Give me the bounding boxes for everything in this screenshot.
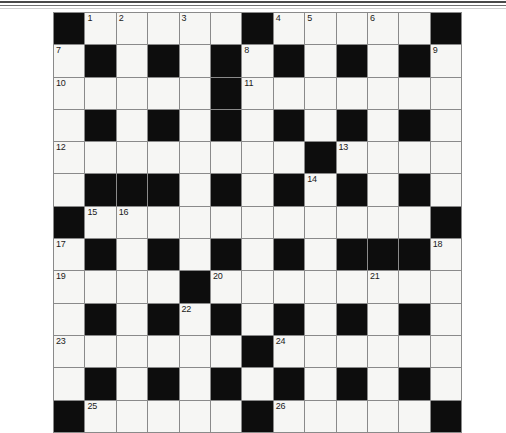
crossword-entry-cell[interactable]: 4 (273, 13, 304, 45)
crossword-entry-cell[interactable] (148, 13, 179, 45)
crossword-entry-cell[interactable] (336, 335, 367, 367)
crossword-entry-cell[interactable]: 11 (242, 77, 273, 109)
crossword-entry-cell[interactable]: 8 (242, 45, 273, 77)
crossword-entry-cell[interactable]: 17 (54, 239, 85, 271)
crossword-entry-cell[interactable] (367, 174, 398, 206)
crossword-entry-cell[interactable] (336, 77, 367, 109)
crossword-entry-cell[interactable] (116, 271, 147, 303)
crossword-entry-cell[interactable] (85, 335, 116, 367)
crossword-entry-cell[interactable]: 2 (116, 13, 147, 45)
crossword-entry-cell[interactable] (305, 239, 336, 271)
crossword-entry-cell[interactable] (179, 142, 210, 174)
crossword-entry-cell[interactable]: 25 (85, 400, 116, 432)
crossword-entry-cell[interactable] (430, 335, 461, 367)
crossword-entry-cell[interactable] (116, 142, 147, 174)
crossword-entry-cell[interactable] (242, 368, 273, 400)
crossword-entry-cell[interactable] (367, 142, 398, 174)
crossword-entry-cell[interactable] (148, 400, 179, 432)
crossword-entry-cell[interactable] (399, 335, 430, 367)
crossword-entry-cell[interactable] (273, 271, 304, 303)
crossword-entry-cell[interactable] (148, 335, 179, 367)
crossword-entry-cell[interactable] (179, 400, 210, 432)
crossword-entry-cell[interactable] (54, 174, 85, 206)
crossword-entry-cell[interactable] (54, 109, 85, 141)
crossword-entry-cell[interactable] (148, 142, 179, 174)
crossword-entry-cell[interactable]: 7 (54, 45, 85, 77)
crossword-entry-cell[interactable] (116, 109, 147, 141)
crossword-entry-cell[interactable] (242, 303, 273, 335)
crossword-entry-cell[interactable] (210, 13, 241, 45)
crossword-entry-cell[interactable]: 3 (179, 13, 210, 45)
crossword-entry-cell[interactable] (367, 368, 398, 400)
crossword-entry-cell[interactable]: 24 (273, 335, 304, 367)
crossword-entry-cell[interactable] (399, 400, 430, 432)
crossword-entry-cell[interactable] (54, 368, 85, 400)
crossword-entry-cell[interactable] (242, 206, 273, 238)
crossword-entry-cell[interactable]: 14 (305, 174, 336, 206)
crossword-entry-cell[interactable]: 20 (210, 271, 241, 303)
crossword-entry-cell[interactable] (273, 206, 304, 238)
crossword-entry-cell[interactable]: 9 (430, 45, 461, 77)
crossword-entry-cell[interactable] (305, 400, 336, 432)
crossword-entry-cell[interactable] (179, 174, 210, 206)
crossword-entry-cell[interactable]: 10 (54, 77, 85, 109)
crossword-entry-cell[interactable] (116, 239, 147, 271)
crossword-entry-cell[interactable] (210, 142, 241, 174)
crossword-entry-cell[interactable] (305, 45, 336, 77)
crossword-entry-cell[interactable] (54, 303, 85, 335)
crossword-entry-cell[interactable] (179, 335, 210, 367)
crossword-entry-cell[interactable] (179, 77, 210, 109)
crossword-entry-cell[interactable]: 22 (179, 303, 210, 335)
crossword-entry-cell[interactable] (305, 368, 336, 400)
crossword-entry-cell[interactable] (148, 271, 179, 303)
crossword-entry-cell[interactable] (210, 400, 241, 432)
crossword-grid[interactable]: 1234567891011121314151617181920212223242… (53, 12, 462, 433)
crossword-entry-cell[interactable] (273, 77, 304, 109)
crossword-entry-cell[interactable] (430, 174, 461, 206)
crossword-entry-cell[interactable] (85, 271, 116, 303)
crossword-entry-cell[interactable] (367, 303, 398, 335)
crossword-entry-cell[interactable] (179, 239, 210, 271)
crossword-entry-cell[interactable]: 12 (54, 142, 85, 174)
crossword-entry-cell[interactable] (430, 142, 461, 174)
crossword-entry-cell[interactable] (210, 206, 241, 238)
crossword-entry-cell[interactable] (116, 335, 147, 367)
crossword-entry-cell[interactable] (430, 271, 461, 303)
crossword-entry-cell[interactable] (242, 239, 273, 271)
crossword-entry-cell[interactable] (116, 368, 147, 400)
crossword-entry-cell[interactable] (399, 77, 430, 109)
crossword-entry-cell[interactable]: 5 (305, 13, 336, 45)
crossword-entry-cell[interactable] (179, 109, 210, 141)
crossword-entry-cell[interactable] (242, 109, 273, 141)
crossword-entry-cell[interactable] (305, 335, 336, 367)
crossword-entry-cell[interactable]: 21 (367, 271, 398, 303)
crossword-entry-cell[interactable] (148, 206, 179, 238)
crossword-entry-cell[interactable] (242, 142, 273, 174)
crossword-entry-cell[interactable] (367, 77, 398, 109)
crossword-entry-cell[interactable] (305, 206, 336, 238)
crossword-entry-cell[interactable] (116, 45, 147, 77)
crossword-entry-cell[interactable]: 15 (85, 206, 116, 238)
crossword-entry-cell[interactable] (430, 109, 461, 141)
crossword-entry-cell[interactable] (273, 142, 304, 174)
crossword-entry-cell[interactable] (85, 142, 116, 174)
crossword-entry-cell[interactable] (179, 368, 210, 400)
crossword-entry-cell[interactable]: 13 (336, 142, 367, 174)
crossword-entry-cell[interactable]: 1 (85, 13, 116, 45)
crossword-entry-cell[interactable]: 16 (116, 206, 147, 238)
crossword-entry-cell[interactable] (336, 271, 367, 303)
crossword-entry-cell[interactable] (116, 303, 147, 335)
crossword-entry-cell[interactable] (399, 13, 430, 45)
crossword-entry-cell[interactable] (148, 77, 179, 109)
crossword-entry-cell[interactable] (305, 303, 336, 335)
crossword-entry-cell[interactable] (367, 45, 398, 77)
crossword-entry-cell[interactable] (430, 368, 461, 400)
crossword-entry-cell[interactable] (367, 109, 398, 141)
crossword-entry-cell[interactable]: 23 (54, 335, 85, 367)
crossword-entry-cell[interactable] (116, 400, 147, 432)
crossword-entry-cell[interactable] (367, 400, 398, 432)
crossword-entry-cell[interactable] (367, 206, 398, 238)
crossword-entry-cell[interactable]: 6 (367, 13, 398, 45)
crossword-entry-cell[interactable] (242, 271, 273, 303)
crossword-entry-cell[interactable] (367, 335, 398, 367)
